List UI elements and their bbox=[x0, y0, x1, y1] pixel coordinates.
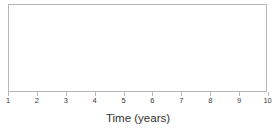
x-tick-label: 7 bbox=[179, 96, 183, 106]
x-tick-label: 2 bbox=[35, 96, 39, 106]
x-tick-label: 8 bbox=[208, 96, 212, 106]
x-tick-label: 6 bbox=[150, 96, 154, 106]
x-tick-label: 10 bbox=[263, 96, 271, 106]
x-axis-title: Time (years) bbox=[0, 111, 276, 126]
x-tick-label: 1 bbox=[6, 96, 10, 106]
plot-area bbox=[8, 4, 267, 92]
x-tick-label: 5 bbox=[121, 96, 125, 106]
chart-figure: 12345678910 Time (years) bbox=[0, 0, 276, 134]
x-axis: 12345678910 bbox=[8, 92, 268, 110]
x-tick-label: 4 bbox=[93, 96, 97, 106]
x-tick-label: 3 bbox=[64, 96, 68, 106]
x-tick-label: 9 bbox=[237, 96, 241, 106]
